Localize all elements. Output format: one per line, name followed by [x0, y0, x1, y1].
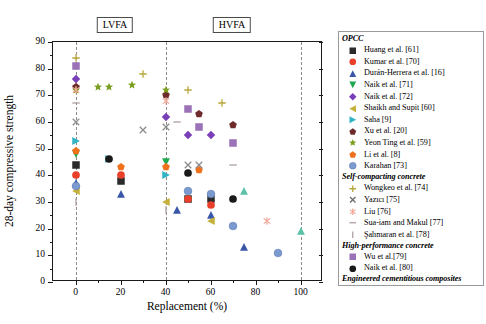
legend-item[interactable]: Huang et al. [61] — [342, 45, 481, 57]
data-point — [229, 120, 238, 129]
legend-marker-icon — [342, 105, 364, 113]
legend-item[interactable]: Naik et al. [72] — [342, 91, 481, 103]
x-tick-label: 80 — [251, 288, 261, 298]
data-point — [161, 112, 170, 121]
legend-section-header: Self-compacting concrete — [342, 172, 481, 183]
legend-item-label: Naik et al. [71] — [364, 80, 413, 90]
legend-marker-icon — [342, 93, 364, 101]
data-point — [94, 83, 103, 92]
legend-item[interactable]: Yeon Ting et al. [59] — [342, 137, 481, 149]
data-point — [71, 99, 80, 108]
data-point — [116, 171, 125, 180]
legend-marker-icon — [342, 253, 364, 261]
y-tick-label: 0 — [40, 277, 45, 287]
reference-line-x100 — [301, 42, 302, 280]
data-point — [274, 248, 283, 257]
data-point — [184, 195, 193, 204]
legend-marker-icon — [342, 185, 364, 193]
legend-marker-icon — [342, 81, 364, 89]
data-point — [240, 243, 249, 252]
y-tick — [48, 149, 53, 150]
y-tick-label: 10 — [36, 251, 46, 261]
y-tick — [48, 122, 53, 123]
data-point — [206, 216, 215, 225]
y-tick-minor — [50, 162, 53, 163]
x-tick-label: 40 — [161, 288, 171, 298]
legend-item[interactable]: Ammasi and Ragul [81] — [342, 285, 481, 286]
legend-item[interactable]: Shaikh and Supit [60] — [342, 102, 481, 114]
legend-marker-icon — [342, 219, 364, 227]
data-point — [139, 70, 148, 79]
x-tick — [301, 280, 302, 285]
y-tick-right — [319, 42, 323, 43]
x-tick — [256, 280, 257, 285]
data-point — [240, 187, 249, 196]
legend-item[interactable]: Sua-iam and Makul [77] — [342, 217, 481, 229]
legend-item[interactable]: Xu et al. [20] — [342, 126, 481, 138]
legend-item[interactable]: Şahmaran et al. [78] — [342, 229, 481, 241]
legend-item[interactable]: Saha [9] — [342, 114, 481, 126]
annotation-hvfa: HVFA — [213, 17, 251, 33]
y-tick-minor — [50, 215, 53, 216]
legend-item-label: Yeon Ting et al. [59] — [364, 138, 431, 148]
x-tick-minor — [233, 280, 234, 283]
legend-item-label: Li et al. [8] — [364, 150, 400, 160]
y-tick — [48, 175, 53, 176]
legend-marker-icon — [342, 208, 364, 216]
x-tick-label: 20 — [116, 288, 126, 298]
legend-item[interactable]: Naik et al. [71] — [342, 79, 481, 91]
data-point — [71, 182, 80, 191]
data-point — [161, 171, 170, 180]
x-tick-label: 0 — [73, 288, 78, 298]
data-point — [184, 104, 193, 113]
data-point — [263, 216, 272, 225]
data-point — [229, 195, 238, 204]
data-point — [229, 222, 238, 231]
data-point — [116, 163, 125, 172]
legend-item[interactable]: Wu et al.[79] — [342, 251, 481, 263]
y-tick — [48, 255, 53, 256]
data-point — [71, 136, 80, 145]
legend-item[interactable]: Liu [76] — [342, 206, 481, 218]
x-tick-minor — [278, 280, 279, 283]
y-tick-right — [319, 202, 323, 203]
data-point — [161, 163, 170, 172]
data-point — [71, 62, 80, 71]
legend-marker-icon — [342, 139, 364, 147]
data-point — [195, 123, 204, 132]
y-tick-label: 40 — [36, 171, 46, 181]
x-tick — [211, 280, 212, 285]
data-point — [195, 160, 204, 169]
data-point — [173, 118, 182, 127]
legend-marker-icon — [342, 58, 364, 66]
legend-item-label: Sua-iam and Makul [77] — [364, 218, 443, 228]
legend-item[interactable]: Kumar et al. [70] — [342, 56, 481, 68]
data-point — [71, 198, 80, 207]
y-axis-label-text: 28-day compressive strength — [3, 95, 15, 227]
legend-item[interactable]: Durán-Herrera et al. [16] — [342, 68, 481, 80]
y-tick — [48, 69, 53, 70]
y-tick-label: 30 — [36, 197, 46, 207]
legend-item[interactable]: Yazıcı [75] — [342, 194, 481, 206]
legend-item-label: Xu et al. [20] — [364, 126, 407, 136]
legend-item-label: Kumar et al. [70] — [364, 57, 420, 67]
legend-item[interactable]: Karahan [73] — [342, 160, 481, 172]
legend-item[interactable]: Li et al. [8] — [342, 149, 481, 161]
x-tick-minor — [188, 280, 189, 283]
legend-item[interactable]: Naik et al. [80] — [342, 263, 481, 275]
y-tick-right — [319, 175, 323, 176]
data-point — [116, 190, 125, 199]
legend-item-label: Wu et al.[79] — [364, 252, 406, 262]
x-tick — [76, 280, 77, 285]
y-tick-minor — [50, 189, 53, 190]
legend-item[interactable]: Wongkeo et al. [74] — [342, 183, 481, 195]
y-tick — [48, 42, 53, 43]
data-point — [161, 206, 170, 215]
data-point — [206, 190, 215, 199]
legend-item-label: Liu [76] — [364, 207, 391, 217]
data-point — [206, 131, 215, 140]
data-point — [184, 187, 193, 196]
data-point — [71, 147, 80, 156]
legend-item-label: Saha [9] — [364, 115, 391, 125]
y-tick-label: 20 — [36, 224, 46, 234]
